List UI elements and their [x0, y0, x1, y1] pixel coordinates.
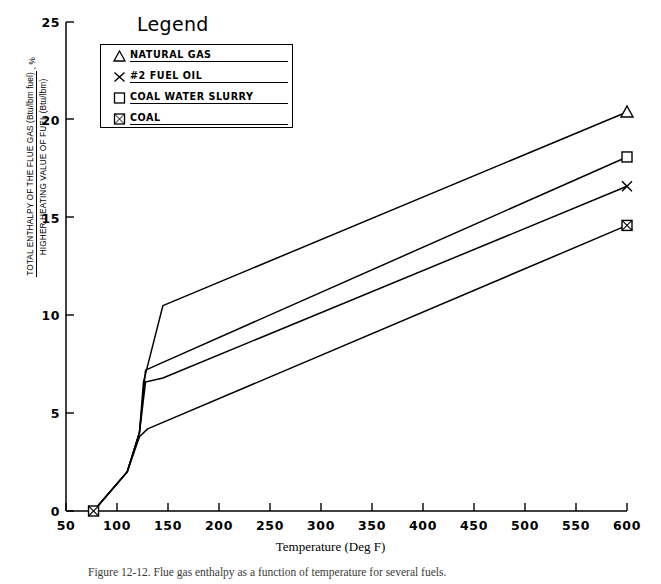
legend-item-coal-water-slurry[interactable]: COAL WATER SLURRY: [101, 87, 292, 108]
x-marker: [108, 67, 130, 87]
x-tick-label: 50: [57, 518, 76, 533]
x-tick-label: 150: [154, 518, 182, 533]
x-axis-title: Temperature (Deg F): [0, 539, 661, 555]
series-line: [94, 112, 627, 511]
x-tick-label: 550: [562, 518, 590, 533]
y-tick-label: 10: [41, 308, 60, 323]
series-markers-group: [89, 106, 633, 516]
x-axis-ticks: [66, 503, 627, 511]
y-tick-label: 5: [51, 406, 60, 421]
y-tick-label: 20: [41, 112, 60, 127]
series-end-marker: [622, 181, 632, 191]
series-line: [94, 157, 627, 511]
x-tick-label: 400: [409, 518, 437, 533]
x-tick-label: 250: [256, 518, 284, 533]
y-axis-ticks: [66, 22, 74, 511]
square-marker: [108, 88, 130, 108]
legend-item-coal[interactable]: COAL: [101, 108, 292, 129]
legend-item-label: COAL WATER SLURRY: [130, 91, 288, 104]
triangle-marker: [108, 46, 130, 66]
series-origin-marker: [89, 506, 99, 516]
legend-item-fuel-oil[interactable]: #2 FUEL OIL: [101, 66, 292, 87]
legend-item-label: NATURAL GAS: [130, 49, 288, 62]
x-tick-label: 300: [307, 518, 335, 533]
legend-item-natural-gas[interactable]: NATURAL GAS: [101, 45, 292, 66]
legend-item-label: COAL: [130, 112, 288, 125]
x-tick-label: 600: [613, 518, 641, 533]
data-series-group: [94, 112, 627, 511]
legend-item-label: #2 FUEL OIL: [130, 70, 288, 83]
chart-figure: TOTAL ENTHALPY OF THE FLUE GAS (Btu/lbm …: [0, 0, 661, 584]
series-end-marker: [621, 106, 633, 117]
x-tick-label: 500: [511, 518, 539, 533]
series-line: [94, 225, 627, 511]
x-tick-label: 350: [358, 518, 386, 533]
legend-title: Legend: [137, 13, 209, 35]
x-tick-label: 200: [205, 518, 233, 533]
figure-page: TOTAL ENTHALPY OF THE FLUE GAS (Btu/lbm …: [0, 0, 661, 584]
legend-box: NATURAL GAS #2 FUEL OIL COAL WATER SLURR…: [100, 44, 293, 128]
crossed-square-marker: [108, 109, 130, 129]
series-end-marker: [622, 152, 632, 162]
x-tick-label: 450: [460, 518, 488, 533]
series-line: [94, 186, 627, 511]
y-tick-label: 15: [41, 210, 60, 225]
y-tick-label: 0: [51, 504, 60, 519]
series-end-marker: [622, 220, 632, 230]
x-tick-label: 100: [103, 518, 131, 533]
figure-caption: Figure 12-12. Flue gas enthalpy as a fun…: [88, 566, 608, 582]
y-tick-label: 25: [41, 15, 60, 30]
